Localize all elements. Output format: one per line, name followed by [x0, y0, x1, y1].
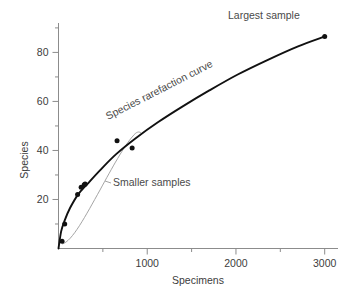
x-tick-label: 3000: [313, 257, 337, 269]
bracket-pointer: [105, 181, 111, 183]
y-tick-label: 80: [37, 46, 49, 58]
y-tick-label-group: 20406080: [37, 46, 49, 205]
x-axis-title: Specimens: [172, 274, 224, 286]
rarefaction-chart: 20406080 100020003000 Largest sample Spe…: [0, 0, 345, 292]
y-tick-label: 60: [37, 95, 49, 107]
data-point: [83, 182, 88, 187]
x-tick-label: 1000: [136, 257, 160, 269]
largest-sample-label: Largest sample: [228, 9, 300, 21]
smaller-samples-label: Smaller samples: [113, 176, 191, 188]
x-tick-label: 2000: [224, 257, 248, 269]
y-tick-group: [53, 28, 59, 224]
curve-label: Species rarefaction curve: [103, 57, 214, 122]
y-tick-label: 40: [37, 144, 49, 156]
axis-group: [59, 23, 339, 249]
data-point: [322, 34, 327, 39]
y-axis-title: Species: [18, 141, 30, 178]
data-point: [62, 221, 67, 226]
y-tick-label: 20: [37, 193, 49, 205]
data-point: [130, 146, 135, 151]
data-point: [115, 138, 120, 143]
data-point: [60, 239, 65, 244]
smaller-samples-bracket: [62, 132, 141, 244]
data-point: [75, 192, 80, 197]
chart-canvas: 20406080 100020003000 Largest sample Spe…: [0, 0, 345, 292]
bracket-outline: [62, 132, 141, 244]
x-tick-group: [103, 249, 325, 255]
x-tick-label-group: 100020003000: [136, 257, 337, 269]
